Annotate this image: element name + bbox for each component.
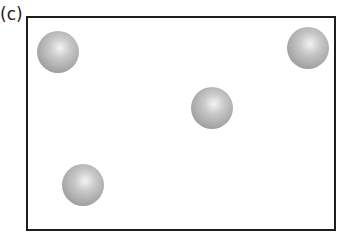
panel-label: (c): [0, 4, 23, 24]
sphere: [37, 31, 79, 73]
sphere: [191, 87, 233, 129]
sphere: [287, 27, 329, 69]
sphere: [62, 164, 104, 206]
